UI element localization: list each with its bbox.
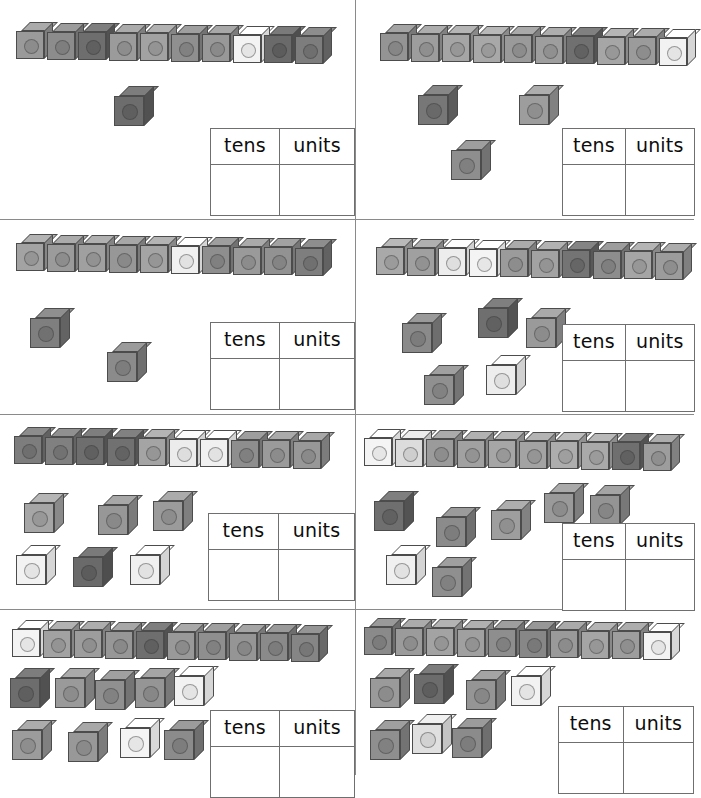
cube-front-face [107,352,137,382]
tens-answer-cell[interactable] [211,359,280,410]
cube-front-face [451,150,481,180]
cube-front-face [628,37,656,65]
cube-front-face [418,95,448,125]
table-answer-row[interactable] [211,359,355,410]
cube-knob-icon [117,253,132,268]
tens-answer-cell[interactable] [211,747,280,798]
cube-front-face [376,247,404,275]
cube-knob-icon [241,255,256,270]
tens-units-table[interactable]: tens units [210,128,355,216]
cube-knob-icon [403,447,418,462]
cube-knob-icon [420,732,436,748]
tens-answer-cell[interactable] [563,165,626,216]
cube-knob-icon [115,360,131,376]
cube-front-face [202,34,230,62]
loose-unit-cube [451,140,491,180]
loose-unit-cube [12,720,52,760]
tens-units-table[interactable]: tens units [558,706,694,794]
tens-units-table[interactable]: tens units [562,523,695,611]
units-answer-cell[interactable] [280,165,355,216]
cube-knob-icon [82,638,97,653]
tens-units-table[interactable]: tens units [210,710,355,798]
units-answer-cell[interactable] [625,560,694,611]
tens-units-table[interactable]: tens units [562,128,695,216]
cube-front-face [138,438,166,466]
cube-front-face [519,441,547,469]
cube-knob-icon [55,252,70,267]
cube-front-face [136,631,164,659]
tens-answer-cell[interactable] [563,361,626,412]
tens-units-table[interactable]: tens units [208,513,355,601]
exercise-cell-5: tens units [0,415,355,609]
cube-front-face [169,439,197,467]
cube-knob-icon [143,686,159,702]
table-answer-row[interactable] [211,747,355,798]
cube-knob-icon [24,251,39,266]
units-header: units [280,129,355,165]
loose-unit-cube [432,557,472,597]
tens-answer-cell[interactable] [563,560,626,611]
cube-knob-icon [55,40,70,55]
units-answer-cell[interactable] [280,359,355,410]
cube-front-face [43,630,71,658]
cube-knob-icon [422,682,438,698]
cube-front-face [295,36,323,64]
cube-front-face [412,724,442,754]
cube-front-face [135,678,165,708]
units-header: units [625,524,694,560]
loose-unit-cube [73,547,113,587]
table-answer-row[interactable] [209,550,355,601]
cube-knob-icon [570,258,585,273]
cube-front-face [10,678,40,708]
tens-units-table[interactable]: tens units [210,322,355,410]
cube-front-face [202,246,230,274]
cube-knob-icon [558,449,573,464]
units-answer-cell[interactable] [279,550,355,601]
table-answer-row[interactable] [559,743,694,794]
cube-knob-icon [426,103,442,119]
cube-front-face [395,439,423,467]
table-answer-row[interactable] [563,560,695,611]
cube-front-face [153,501,183,531]
cube-front-face [535,36,563,64]
cube-front-face [109,245,137,273]
cube-front-face [55,678,85,708]
cube-knob-icon [303,256,318,271]
table-header-row: tens units [211,323,355,359]
exercise-cell-8: tens units [356,610,694,775]
loose-unit-cube [98,495,138,535]
cube-knob-icon [440,575,456,591]
loose-unit-cube [130,545,170,585]
cube-knob-icon [177,447,192,462]
cube-front-face [442,34,470,62]
cube-knob-icon [663,260,678,275]
cube-front-face [380,33,408,61]
cube-knob-icon [24,39,39,54]
cube-front-face [95,680,125,710]
cube-front-face [109,33,137,61]
cube-knob-icon [113,639,128,654]
cube-front-face [370,678,400,708]
cube-knob-icon [432,383,448,399]
units-answer-cell[interactable] [625,165,694,216]
loose-unit-cube [436,507,476,547]
units-answer-cell[interactable] [625,361,694,412]
rod-of-ten [12,620,328,663]
cube-front-face [364,438,392,466]
tens-units-table[interactable]: tens units [562,324,695,412]
cube-knob-icon [372,446,387,461]
cube-knob-icon [477,257,492,272]
units-answer-cell[interactable] [280,747,355,798]
table-answer-row[interactable] [563,165,695,216]
cube-front-face [466,680,496,710]
tens-answer-cell[interactable] [559,743,624,794]
table-answer-row[interactable] [211,165,355,216]
units-answer-cell[interactable] [623,743,693,794]
tens-answer-cell[interactable] [209,550,279,601]
tens-answer-cell[interactable] [211,165,280,216]
cube-knob-icon [543,44,558,59]
loose-unit-cube [414,664,454,704]
table-answer-row[interactable] [563,361,695,412]
cube-knob-icon [459,158,475,174]
cube-front-face [73,557,103,587]
